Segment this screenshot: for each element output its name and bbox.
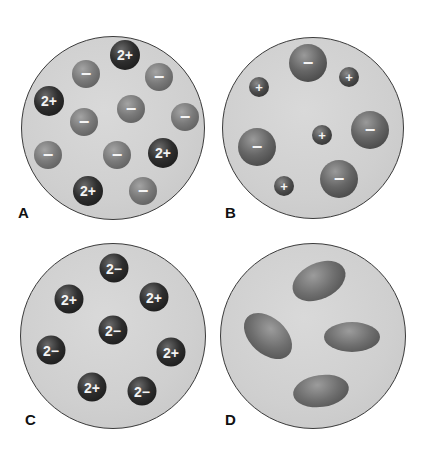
- anion-icon: −: [320, 160, 358, 198]
- charge-label: −: [126, 99, 137, 120]
- cation-icon: +: [312, 125, 332, 145]
- charge-label: 2−: [105, 322, 121, 338]
- neutral-molecule-icon: [324, 322, 380, 352]
- charge-label: 2+: [80, 183, 96, 199]
- charge-label: 2+: [117, 47, 133, 63]
- charge-label: +: [318, 128, 326, 143]
- anion-icon: −: [70, 108, 98, 136]
- charge-label: −: [303, 53, 314, 74]
- cation-icon: +: [274, 176, 294, 196]
- charge-label: +: [280, 179, 288, 194]
- anion-icon: 2−: [128, 377, 157, 406]
- anion-icon: −: [171, 103, 199, 131]
- anion-icon: −: [238, 128, 276, 166]
- panel-label-d: D: [225, 411, 236, 428]
- charge-label: 2+: [41, 93, 57, 109]
- anion-icon: −: [129, 177, 157, 205]
- cation-icon: 2+: [73, 176, 103, 206]
- cation-icon: 2+: [110, 40, 140, 70]
- anion-icon: −: [34, 141, 62, 169]
- cation-icon: 2+: [78, 373, 107, 402]
- cation-icon: 2+: [140, 283, 169, 312]
- anion-icon: −: [72, 60, 100, 88]
- cation-icon: 2+: [55, 285, 84, 314]
- panel-label-c: C: [25, 411, 36, 428]
- anion-icon: 2−: [99, 316, 128, 345]
- panel-label-a: A: [18, 204, 29, 221]
- charge-label: 2+: [155, 145, 171, 161]
- charge-label: −: [79, 112, 90, 133]
- charge-label: +: [255, 80, 263, 95]
- charge-label: −: [138, 181, 149, 202]
- anion-icon: −: [103, 141, 131, 169]
- charge-label: 2+: [163, 344, 179, 360]
- charge-label: 2−: [106, 260, 122, 276]
- anion-icon: −: [351, 111, 389, 149]
- charge-label: −: [112, 145, 123, 166]
- charge-label: 2+: [146, 289, 162, 305]
- cation-icon: +: [339, 67, 359, 87]
- charge-label: −: [43, 145, 54, 166]
- charge-label: 2+: [61, 291, 77, 307]
- charge-label: −: [180, 107, 191, 128]
- charge-label: 2+: [84, 379, 100, 395]
- panel-label-b: B: [225, 204, 236, 221]
- cation-icon: 2+: [148, 138, 178, 168]
- anion-icon: 2−: [37, 336, 66, 365]
- charge-label: −: [365, 120, 376, 141]
- anion-icon: 2−: [100, 254, 129, 283]
- charge-label: 2−: [134, 383, 150, 399]
- charge-label: −: [154, 67, 165, 88]
- cation-icon: +: [249, 77, 269, 97]
- anion-icon: −: [117, 95, 145, 123]
- cation-icon: 2+: [34, 86, 64, 116]
- cation-icon: 2+: [157, 338, 186, 367]
- anion-icon: −: [289, 44, 327, 82]
- anion-icon: −: [145, 63, 173, 91]
- charge-label: +: [345, 70, 353, 85]
- charge-label: 2−: [43, 342, 59, 358]
- charge-label: −: [81, 64, 92, 85]
- charge-label: −: [334, 169, 345, 190]
- charge-label: −: [252, 137, 263, 158]
